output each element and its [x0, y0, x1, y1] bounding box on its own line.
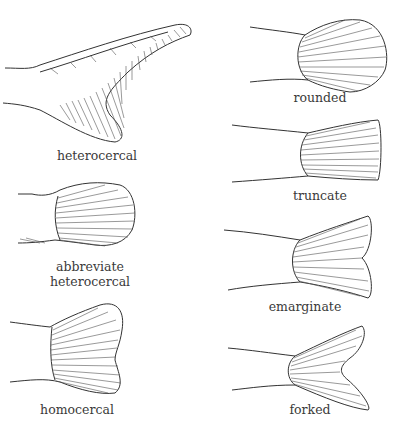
- label-homocercal: homocercal: [22, 402, 132, 417]
- label-truncate: truncate: [265, 188, 375, 203]
- truncate-fin-drawing: [232, 120, 381, 182]
- label-abbreviate-line2: heterocercal: [30, 274, 150, 289]
- emarginate-fin-drawing: [224, 216, 371, 298]
- forked-fin-drawing: [228, 326, 369, 410]
- homocercal-fin-drawing: [10, 304, 123, 394]
- rounded-fin-drawing: [250, 20, 387, 92]
- label-abbreviate-line1: abbreviate: [30, 259, 150, 274]
- label-emarginate: emarginate: [250, 299, 360, 314]
- abbreviate-heterocercal-fin-drawing: [18, 183, 135, 246]
- label-abbreviate-heterocercal: abbreviate heterocercal: [30, 259, 150, 289]
- label-heterocercal: heterocercal: [42, 148, 152, 163]
- label-forked: forked: [255, 402, 365, 417]
- heterocercal-fin-drawing: [3, 24, 191, 142]
- fin-diagram: .o { fill:none; stroke:#333; stroke-widt…: [0, 0, 393, 423]
- label-rounded: rounded: [265, 90, 375, 105]
